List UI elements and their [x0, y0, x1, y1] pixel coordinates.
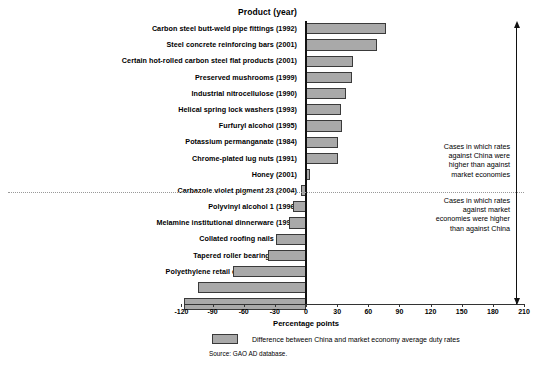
bar-row-label: Helical spring lock washers (1993)	[178, 105, 297, 114]
bar	[198, 282, 306, 293]
x-tick	[244, 304, 245, 307]
bar	[306, 23, 386, 34]
bar	[289, 217, 306, 228]
x-tick-label: 120	[425, 308, 437, 315]
bar-row-label: Industrial nitrocellulose (1990)	[192, 89, 297, 98]
lower-range-arrow-head-icon	[514, 298, 520, 305]
bar	[276, 234, 306, 245]
bar	[306, 104, 341, 115]
x-axis-line	[184, 304, 524, 305]
bar-row: Carbon steel butt-weld pipe fittings (19…	[0, 21, 538, 37]
bar-row: Preserved mushrooms (1999)	[0, 70, 538, 86]
annotation-upper: Cases in which rates against China were …	[412, 142, 510, 179]
x-tick	[275, 304, 276, 307]
bar-row-label: Furfuryl alcohol (1995)	[219, 121, 297, 130]
bar-row: Ferrovanadium (2003)	[0, 280, 538, 296]
x-tick-label: 150	[456, 308, 468, 315]
bar-row: Furfuryl alcohol (1995)	[0, 118, 538, 134]
bar-row-label: Carbazole violet pigment 23 (2004)	[177, 186, 297, 195]
bar-row-label: Polyvinyl alcohol 1 (1996)	[208, 202, 297, 211]
x-tick	[368, 304, 369, 307]
x-tick	[306, 304, 307, 307]
chart-canvas: Product (year) Carbon steel butt-weld pi…	[0, 0, 538, 373]
bar-row-label: Chrome-plated lug nuts (1991)	[192, 154, 297, 163]
bar	[306, 120, 342, 131]
x-tick-label: 0	[304, 308, 308, 315]
x-tick	[462, 304, 463, 307]
upper-range-arrow-head-icon	[514, 21, 520, 28]
bar-row-label: Carbon steel butt-weld pipe fittings (19…	[152, 24, 297, 33]
bar-row: Collated roofing nails (1997)	[0, 231, 538, 247]
x-tick-label: -90	[208, 308, 218, 315]
upper-range-arrow-line	[516, 28, 517, 192]
legend-swatch-icon	[212, 334, 238, 344]
x-tick-label: 210	[518, 308, 530, 315]
bar	[306, 56, 353, 67]
x-axis-title: Percentage points	[273, 319, 339, 328]
x-tick-label: -60	[239, 308, 249, 315]
legend-label: Difference between China and market econ…	[252, 336, 460, 343]
zero-axis-line	[305, 21, 307, 304]
x-tick-label: 60	[364, 308, 372, 315]
x-tick-label: 30	[333, 308, 341, 315]
bar	[233, 266, 306, 277]
bar	[306, 39, 377, 50]
bar	[306, 88, 346, 99]
source-note: Source: GAO AD database.	[209, 350, 287, 357]
x-tick-label: 180	[487, 308, 499, 315]
x-tick	[399, 304, 400, 307]
x-tick	[181, 304, 182, 307]
bar-row-label: Certain hot-rolled carbon steel flat pro…	[122, 56, 297, 65]
bar-row: Polyethylene retail carrier bags (2004)	[0, 264, 538, 280]
bar	[306, 72, 352, 83]
category-split-line	[8, 192, 524, 193]
bar	[293, 201, 306, 212]
bar-row-label: Steel concrete reinforcing bars (2001)	[166, 40, 297, 49]
bar	[268, 250, 306, 261]
bar-row: Steel concrete reinforcing bars (2001)	[0, 37, 538, 53]
bar-row: Tapered roller bearings (1987)	[0, 248, 538, 264]
y-axis-header: Product (year)	[0, 7, 297, 17]
x-tick-label: -30	[270, 308, 280, 315]
x-tick	[213, 304, 214, 307]
bar-row-label: Preserved mushrooms (1999)	[195, 73, 297, 82]
x-tick	[431, 304, 432, 307]
x-tick	[493, 304, 494, 307]
bar-row: Industrial nitrocellulose (1990)	[0, 86, 538, 102]
x-tick-label: -120	[174, 308, 188, 315]
bar-row: Helical spring lock washers (1993)	[0, 102, 538, 118]
annotation-lower: Cases in which rates against market econ…	[412, 196, 510, 233]
bar-row: Certain hot-rolled carbon steel flat pro…	[0, 53, 538, 69]
x-tick-label: 90	[396, 308, 404, 315]
x-tick	[337, 304, 338, 307]
x-tick	[524, 304, 525, 307]
bar-row-label: Melamine institutional dinnerware (1997)	[156, 218, 297, 227]
bar	[306, 153, 338, 164]
lower-range-arrow-line	[516, 192, 517, 304]
bar-row-label: Potassium permanganate (1984)	[185, 137, 297, 146]
legend: Difference between China and market econ…	[212, 334, 460, 344]
bar-row-label: Honey (2001)	[252, 170, 297, 179]
bar	[306, 137, 338, 148]
